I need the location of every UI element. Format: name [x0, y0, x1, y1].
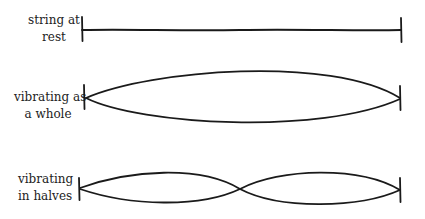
string-vibrating-halves	[79, 173, 401, 205]
string-vibrating-whole	[84, 71, 401, 122]
string-at-rest	[82, 17, 402, 42]
strings-drawing	[0, 0, 425, 219]
